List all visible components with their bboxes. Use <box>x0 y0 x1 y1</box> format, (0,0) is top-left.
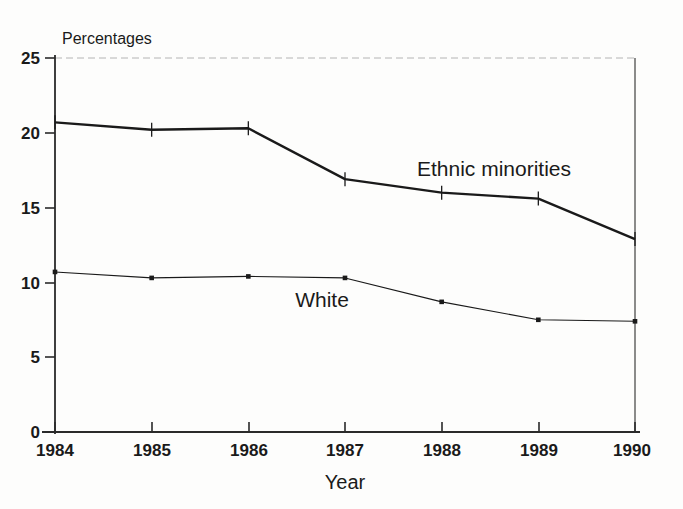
x-tick-label-1987: 1987 <box>326 441 364 460</box>
x-tick-label-1986: 1986 <box>230 441 268 460</box>
x-tick-label-1988: 1988 <box>423 441 461 460</box>
series-ethnic-minorities <box>55 115 635 246</box>
y-axis-tick-labels: 25 20 15 10 5 0 <box>21 49 40 442</box>
data-point-marker <box>633 319 638 324</box>
y-tick-label-25: 25 <box>21 49 40 68</box>
x-axis-ticks <box>55 422 635 432</box>
series-label-ethnic-minorities: Ethnic minorities <box>417 157 571 180</box>
data-point-marker <box>53 270 58 275</box>
data-point-marker <box>343 276 348 281</box>
chart-frame <box>42 55 640 434</box>
y-axis-ticks <box>45 58 55 432</box>
data-point-marker <box>246 274 251 279</box>
y-tick-label-15: 15 <box>21 199 40 218</box>
x-axis-tick-labels: 1984 1985 1986 1987 1988 1989 1990 <box>36 441 651 460</box>
y-tick-label-0: 0 <box>31 423 40 442</box>
x-tick-label-1984: 1984 <box>36 441 74 460</box>
series-annotations: Ethnic minorities White <box>295 157 571 311</box>
x-axis-title: Year <box>325 471 366 493</box>
data-point-marker <box>536 318 541 323</box>
line-chart: 25 20 15 10 5 0 1984 1985 1986 1987 1988… <box>0 0 683 509</box>
plot-title: Percentages <box>62 30 152 47</box>
y-tick-label-20: 20 <box>21 124 40 143</box>
series-label-white: White <box>295 288 349 311</box>
data-point-marker <box>149 276 154 281</box>
x-tick-label-1989: 1989 <box>520 441 558 460</box>
data-point-marker <box>439 300 444 305</box>
y-tick-label-10: 10 <box>21 274 40 293</box>
chart-container: 25 20 15 10 5 0 1984 1985 1986 1987 1988… <box>0 0 683 509</box>
x-tick-label-1985: 1985 <box>133 441 171 460</box>
x-tick-label-1990: 1990 <box>613 441 651 460</box>
y-tick-label-5: 5 <box>31 348 40 367</box>
